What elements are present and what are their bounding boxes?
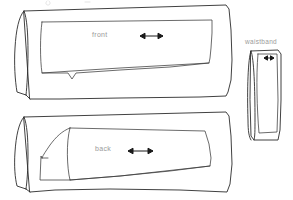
waistband-piece-label: waistband bbox=[245, 38, 277, 45]
pattern-sketch-svg bbox=[0, 0, 293, 200]
front-pattern-piece bbox=[41, 20, 213, 79]
pattern-sketch-canvas: front back waistband bbox=[0, 0, 293, 200]
top-edge-faint-marks bbox=[46, 1, 90, 5]
back-piece-label: back bbox=[95, 145, 111, 152]
back-pattern-piece bbox=[40, 128, 211, 180]
front-piece-label: front bbox=[92, 31, 108, 38]
front-fabric-outline bbox=[15, 5, 232, 99]
waistband-fabric-outline bbox=[248, 50, 281, 140]
waistband-grainline-arrow bbox=[264, 56, 274, 60]
back-grainline-arrow bbox=[128, 148, 153, 154]
waistband-pattern-piece bbox=[257, 54, 278, 133]
front-grainline-arrow bbox=[140, 33, 163, 39]
